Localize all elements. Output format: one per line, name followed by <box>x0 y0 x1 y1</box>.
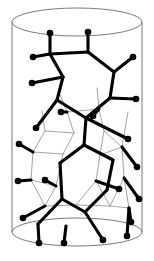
front-bond <box>85 190 107 212</box>
atom-node <box>133 96 140 103</box>
atom-node <box>15 178 22 185</box>
terminal-bond <box>110 98 136 99</box>
back-bond <box>63 133 74 154</box>
front-bond <box>88 52 114 72</box>
atom-node <box>116 186 123 193</box>
atom-node <box>33 125 40 132</box>
back-bond <box>110 206 129 208</box>
terminal-bond <box>122 147 137 167</box>
figure-container <box>0 0 154 261</box>
atom-node <box>136 196 143 203</box>
atom-node <box>58 109 65 116</box>
back-bond <box>110 178 124 206</box>
back-bond <box>96 155 100 181</box>
back-bond <box>76 181 96 205</box>
front-bond <box>50 54 63 77</box>
front-bond <box>60 163 62 199</box>
back-bond <box>31 180 45 206</box>
terminal-bond <box>124 178 139 199</box>
atom-node <box>90 113 97 120</box>
front-bond <box>50 52 88 54</box>
back-bond <box>31 152 33 180</box>
back-bond <box>100 131 104 155</box>
cylinder-group <box>12 8 142 246</box>
atom-node <box>29 80 36 87</box>
atom-node <box>128 219 135 226</box>
atom-node <box>36 240 43 247</box>
atom-node <box>20 215 27 222</box>
terminal-bond <box>85 212 103 240</box>
front-bond <box>84 145 113 160</box>
back-bond <box>33 131 45 152</box>
back-bond <box>33 152 63 154</box>
molecular-network-diagram <box>0 0 154 261</box>
front-bond <box>38 199 62 224</box>
atom-node <box>85 29 92 36</box>
front-bond <box>84 118 86 145</box>
terminal-bond <box>32 77 63 83</box>
front-bond <box>57 77 63 100</box>
terminal-bond <box>114 57 133 72</box>
atom-node <box>130 54 137 61</box>
back-bond <box>45 186 56 206</box>
atom-node <box>125 136 132 143</box>
back-bond <box>67 112 74 133</box>
cylinder-top-ellipse <box>12 8 142 36</box>
front-bond <box>110 72 114 98</box>
atom-node <box>16 141 23 148</box>
atom-node <box>134 164 141 171</box>
terminal-bond <box>23 206 45 218</box>
atom-node <box>47 30 54 37</box>
front-bond <box>60 145 84 163</box>
terminal-bond <box>86 118 128 139</box>
atom-node <box>61 240 68 247</box>
atom-node <box>42 177 49 184</box>
terminal-bond <box>36 100 57 128</box>
cylinder-bottom-ellipse <box>12 218 142 246</box>
back-bond <box>45 131 74 133</box>
atom-node <box>100 237 107 244</box>
atom-node <box>30 54 37 61</box>
atom-node <box>124 233 131 240</box>
